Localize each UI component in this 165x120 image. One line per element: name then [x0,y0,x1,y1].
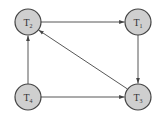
node-subscript: 4 [30,98,33,104]
edges [28,22,138,97]
edge-t3-to-t2 [39,30,128,89]
node-subscript: 1 [140,23,143,29]
node-t2: T 2 [15,9,41,35]
node-t3: T 3 [125,84,151,110]
node-subscript: 2 [30,23,33,29]
node-subscript: 3 [140,98,143,104]
dependency-graph: T 2 T 1 T 4 T 3 [0,0,165,120]
node-t4: T 4 [15,84,41,110]
node-t1: T 1 [125,9,151,35]
